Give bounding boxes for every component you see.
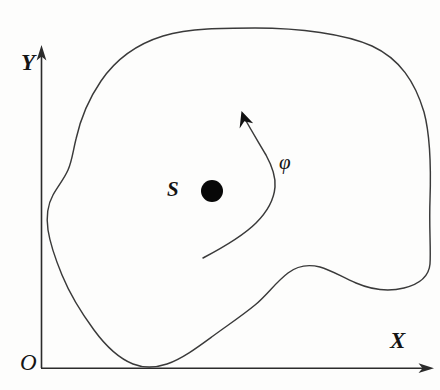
y-axis-label: Y bbox=[21, 51, 35, 74]
y-axis bbox=[37, 45, 47, 368]
figure-canvas: Y X O S φ bbox=[0, 0, 440, 390]
region-label: S bbox=[167, 179, 179, 200]
x-axis-label: X bbox=[390, 329, 405, 352]
x-axis bbox=[41, 363, 434, 373]
origin-label: O bbox=[20, 351, 37, 374]
figure-drawing bbox=[0, 0, 440, 390]
phi-curve-label: φ bbox=[279, 152, 291, 173]
closed-region-boundary bbox=[47, 28, 430, 367]
interior-point-marker bbox=[201, 180, 223, 202]
phi-arrow-head-icon bbox=[240, 111, 254, 129]
